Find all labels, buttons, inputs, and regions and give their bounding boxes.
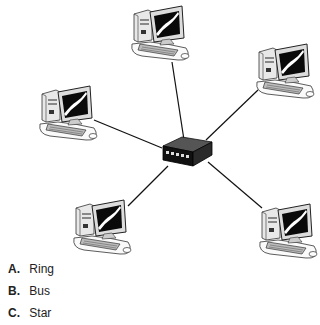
computer-left-icon <box>40 86 97 140</box>
option-c-letter: C. <box>8 306 26 320</box>
link-left <box>94 120 162 148</box>
option-c-text: Star <box>29 306 51 320</box>
link-bottom-right <box>208 162 262 208</box>
computer-bottom-right-icon <box>260 204 317 258</box>
option-a[interactable]: A. Ring <box>8 262 54 282</box>
star-topology-diagram <box>0 0 320 265</box>
option-a-text: Ring <box>29 262 54 276</box>
computer-top-icon <box>132 6 189 60</box>
option-b[interactable]: B. Bus <box>8 284 50 304</box>
option-c[interactable]: C. Star <box>8 306 51 325</box>
link-top <box>172 62 184 140</box>
computer-bottom-left-icon <box>74 200 131 254</box>
network-links <box>94 62 262 208</box>
link-right <box>206 90 258 140</box>
switch-icon <box>163 137 212 166</box>
link-bottom-left <box>128 166 168 206</box>
option-b-letter: B. <box>8 284 26 298</box>
option-a-letter: A. <box>8 262 26 276</box>
computer-right-icon <box>257 44 314 98</box>
option-b-text: Bus <box>29 284 50 298</box>
